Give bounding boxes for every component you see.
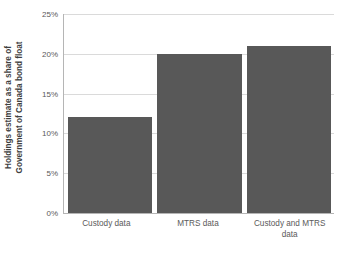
- y-axis-tick-label: 25%: [42, 10, 58, 19]
- bars-layer: [64, 14, 334, 213]
- bar-slot: [64, 14, 152, 213]
- x-axis-tick-label-line: data: [248, 230, 331, 241]
- bar[interactable]: [68, 117, 152, 213]
- x-axis-tick-labels: Custody dataMTRS dataCustody and MTRSdat…: [63, 219, 333, 240]
- bar-slot: [157, 14, 241, 213]
- x-axis-tick-label-line: MTRS data: [157, 219, 240, 230]
- y-axis-tick-labels: 0%5%10%15%20%25%: [28, 0, 62, 254]
- y-axis-title-line-2: Government of Canada bond float: [15, 42, 26, 174]
- y-axis-tick-label: 15%: [42, 89, 58, 98]
- y-axis-tick-label: 5%: [46, 169, 58, 178]
- x-axis-tick-label: Custody data: [63, 219, 150, 240]
- y-axis-title-line-1: Holdings estimate as a share of: [5, 42, 16, 174]
- x-axis-tick-label-line: Custody and MTRS: [248, 219, 331, 230]
- x-axis-tick-label: MTRS data: [155, 219, 242, 240]
- y-axis-tick-label: 10%: [42, 129, 58, 138]
- x-axis-tick-label-line: Custody data: [65, 219, 148, 230]
- x-axis-tick-label: Custody and MTRSdata: [246, 219, 333, 240]
- y-axis-title: Holdings estimate as a share of Governme…: [2, 0, 28, 215]
- bar[interactable]: [247, 46, 331, 213]
- bar[interactable]: [157, 54, 241, 213]
- bar-slot: [247, 14, 334, 213]
- plot-area: [63, 14, 334, 214]
- bar-chart-figure: Holdings estimate as a share of Governme…: [0, 0, 344, 254]
- y-axis-tick-label: 0%: [46, 209, 58, 218]
- y-axis-tick-label: 20%: [42, 49, 58, 58]
